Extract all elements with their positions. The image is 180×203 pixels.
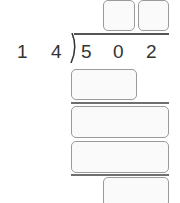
step2-product-input[interactable]	[71, 141, 169, 173]
subtraction-line-2	[71, 174, 169, 176]
final-remainder-input[interactable]	[103, 177, 169, 203]
division-bar	[74, 33, 169, 35]
dividend-digit-hundreds: 5	[81, 42, 92, 61]
quotient-tens-input[interactable]	[103, 0, 135, 31]
step1-product-input[interactable]	[71, 69, 137, 100]
subtraction-line-1	[71, 102, 169, 104]
quotient-ones-input[interactable]	[138, 0, 169, 31]
step2-remainder-input[interactable]	[71, 106, 169, 138]
divisor-digit-tens: 1	[17, 42, 28, 61]
dividend-digit-tens: 0	[113, 42, 124, 61]
divisor-digit-ones: 4	[51, 42, 62, 61]
dividend-digit-ones: 2	[146, 42, 157, 61]
division-bracket-icon	[68, 33, 78, 63]
